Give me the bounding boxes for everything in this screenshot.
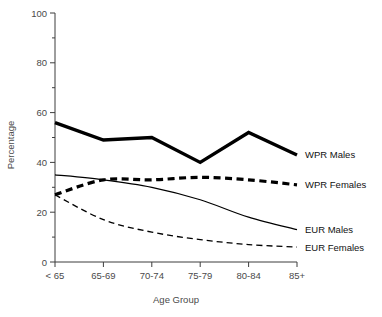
y-axis: 020406080100 <box>31 8 55 268</box>
series-label-eur-females: EUR Females <box>305 242 364 253</box>
x-axis-title: Age Group <box>153 294 199 305</box>
series-line-wpr-females <box>55 177 297 194</box>
y-tick-label: 40 <box>36 157 47 168</box>
chart-figure: 020406080100 < 6565-6970-7475-7980-8485+… <box>0 0 382 317</box>
y-tick-label: 20 <box>36 207 47 218</box>
x-tick-label: 70-74 <box>140 270 164 281</box>
series-label-wpr-females: WPR Females <box>305 179 366 190</box>
y-axis-title: Percentage <box>5 121 16 170</box>
x-tick-label: 75-79 <box>188 270 212 281</box>
x-tick-label: < 65 <box>46 270 65 281</box>
y-tick-label: 80 <box>36 57 47 68</box>
line-chart: 020406080100 < 6565-6970-7475-7980-8485+… <box>0 0 382 317</box>
y-tick-label: 60 <box>36 107 47 118</box>
y-tick-label: 100 <box>31 8 47 19</box>
x-tick-label: 80-84 <box>236 270 260 281</box>
x-tick-label: 85+ <box>289 270 306 281</box>
series-label-wpr-males: WPR Males <box>305 149 355 160</box>
x-tick-label: 65-69 <box>91 270 115 281</box>
series-line-wpr-males <box>55 123 297 163</box>
series-labels: WPR MalesWPR FemalesEUR MalesEUR Females <box>305 149 366 252</box>
series-label-eur-males: EUR Males <box>305 224 353 235</box>
x-axis: < 6565-6970-7475-7980-8485+ <box>46 262 306 281</box>
series-lines <box>55 123 297 248</box>
y-tick-label: 0 <box>42 257 47 268</box>
